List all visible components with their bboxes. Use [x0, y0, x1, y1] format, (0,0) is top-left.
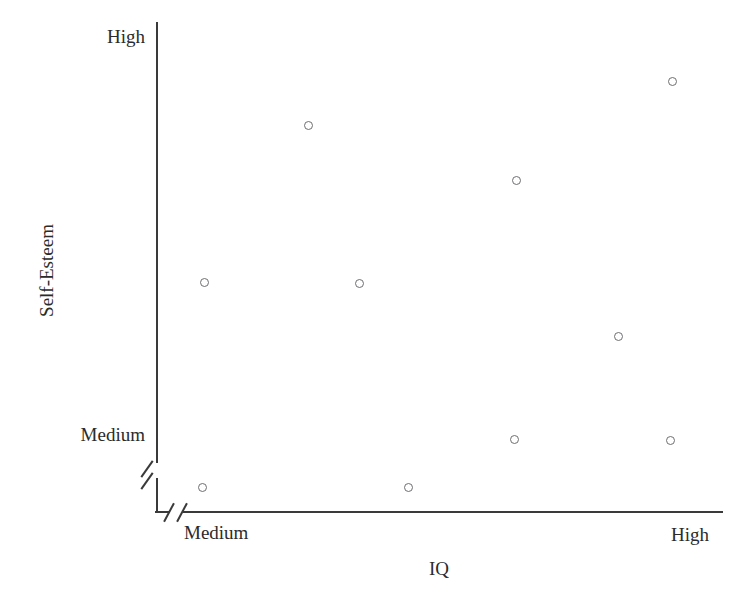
scatter-point — [668, 77, 677, 86]
scatter-point — [198, 483, 207, 492]
scatter-point — [200, 278, 209, 287]
y-axis-tick-label-high: High — [107, 27, 145, 46]
scatter-point — [512, 176, 521, 185]
scatter-point — [304, 121, 313, 130]
y-axis-line — [156, 22, 158, 513]
plot-area — [0, 0, 751, 598]
x-axis-tick-label-high: High — [671, 525, 709, 544]
scatter-plot-figure: High Medium Medium High Self-Esteem IQ — [0, 0, 751, 598]
y-axis-title: Self-Esteem — [37, 201, 56, 341]
x-axis-line — [155, 511, 723, 513]
y-axis-break-mask — [154, 463, 160, 478]
scatter-point — [355, 279, 364, 288]
scatter-point — [404, 483, 413, 492]
scatter-point — [510, 435, 519, 444]
y-axis-tick-label-medium: Medium — [81, 425, 145, 444]
x-axis-title: IQ — [155, 559, 723, 578]
scatter-point — [614, 332, 623, 341]
x-axis-tick-label-medium: Medium — [184, 523, 248, 542]
scatter-point — [666, 436, 675, 445]
